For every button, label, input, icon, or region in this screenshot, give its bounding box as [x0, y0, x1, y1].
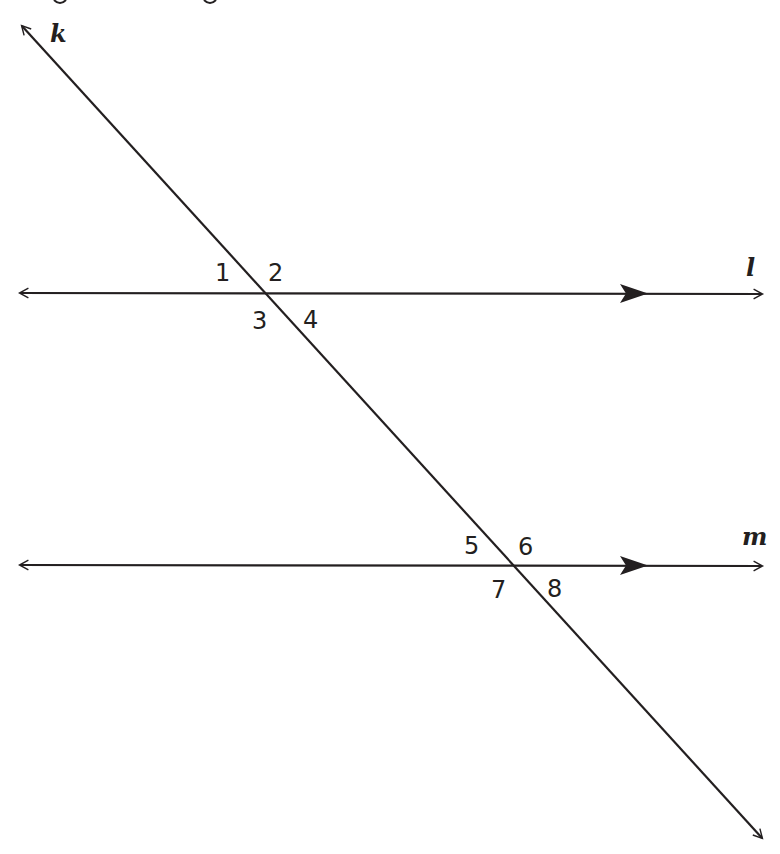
angle-4: 4: [303, 306, 318, 334]
angle-8: 8: [547, 575, 562, 603]
line-m: m: [20, 522, 767, 575]
parallel-line-m: [20, 565, 762, 566]
angle-6: 6: [518, 533, 533, 561]
line-k: k: [22, 19, 762, 838]
angle-7: 7: [491, 576, 506, 604]
cropped-text-fragment: [54, 0, 216, 3]
label-k: k: [50, 19, 67, 48]
line-l: l: [20, 253, 762, 303]
transversal-k: [22, 26, 762, 838]
label-m: m: [742, 522, 767, 551]
angles-upper-intersection: 1 2 3 4: [215, 259, 318, 335]
parallel-lines-diagram: k l m 1 2 3 4 5 6 7 8: [0, 0, 780, 854]
angles-lower-intersection: 5 6 7 8: [464, 532, 562, 604]
angle-2: 2: [268, 259, 283, 287]
angle-5: 5: [464, 532, 479, 560]
angle-3: 3: [252, 307, 267, 335]
parallel-line-l: [20, 293, 762, 294]
angle-1: 1: [215, 259, 230, 287]
label-l: l: [746, 253, 755, 282]
